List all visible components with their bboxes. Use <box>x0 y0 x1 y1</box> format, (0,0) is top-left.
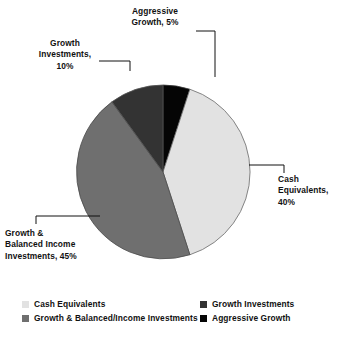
legend-label-growth-balanced-income: Growth & Balanced/Income Investments <box>34 314 198 323</box>
legend-item-growth-investments[interactable]: Growth Investments <box>200 300 294 309</box>
callout-label-growth-investments: Growth Investments, 10% <box>28 38 102 72</box>
leader-line-cash-equivalents <box>249 165 284 173</box>
legend-swatch-icon-growth-investments <box>200 301 207 308</box>
legend-swatch-icon-cash-equivalents <box>22 301 29 308</box>
leader-line-aggressive-growth <box>196 31 215 77</box>
callout-label-aggressive-growth: Aggressive Growth, 5% <box>116 6 194 29</box>
legend-item-aggressive-growth[interactable]: Aggressive Growth <box>200 314 291 323</box>
pie-chart: Aggressive Growth, 5% Growth Investments… <box>0 0 338 347</box>
legend-swatch-icon-growth-balanced-income <box>22 315 29 322</box>
legend-item-growth-balanced-income[interactable]: Growth & Balanced/Income Investments <box>22 314 198 323</box>
chart-legend: Cash Equivalents Growth & Balanced/Incom… <box>18 300 328 332</box>
legend-label-cash-equivalents: Cash Equivalents <box>34 300 105 309</box>
leader-line-growth-investments <box>99 61 130 71</box>
legend-swatch-icon-aggressive-growth <box>200 315 207 322</box>
legend-item-cash-equivalents[interactable]: Cash Equivalents <box>22 300 105 309</box>
callout-label-cash-equivalents: Cash Equivalents, 40% <box>278 174 336 208</box>
legend-label-aggressive-growth: Aggressive Growth <box>212 314 291 323</box>
legend-label-growth-investments: Growth Investments <box>212 300 294 309</box>
callout-label-growth-balanced-income: Growth & Balanced Income Investments, 45… <box>5 228 105 262</box>
